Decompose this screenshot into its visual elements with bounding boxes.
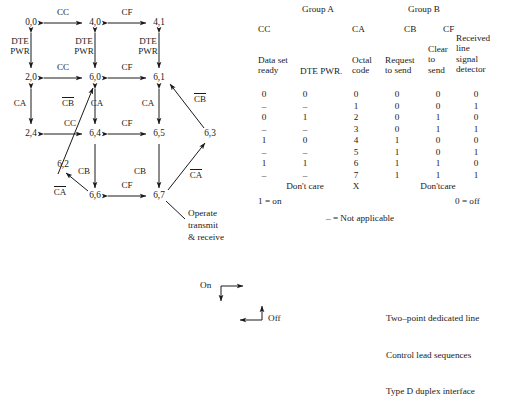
- table-cell: 1: [385, 170, 409, 180]
- table-cell: 0: [252, 89, 276, 99]
- signal-code-CC: CC: [258, 24, 270, 34]
- table-cell: 1: [385, 147, 409, 157]
- h-octal-code: Octalcode: [352, 55, 372, 76]
- table-cell: 1: [426, 158, 450, 168]
- header-line: Data set: [258, 55, 288, 65]
- table-cell: 4: [344, 135, 368, 145]
- table-cell: 0: [426, 89, 450, 99]
- table-group-header: Group B: [408, 4, 440, 14]
- header-line: code: [352, 65, 372, 75]
- table-cell: 1: [426, 170, 450, 180]
- figure-caption: Two–point dedicated line Control lead se…: [386, 288, 479, 400]
- table-cell: –: [293, 101, 317, 111]
- table-cell: 1: [344, 101, 368, 111]
- signal-code-CA: CA: [352, 24, 365, 34]
- caption-line-1: Two–point dedicated line: [386, 312, 479, 324]
- caption-line-3: Type D duplex interface: [386, 385, 479, 397]
- table-cell: 0: [385, 124, 409, 134]
- table-cell: 3: [344, 124, 368, 134]
- table-cell: 0: [464, 89, 488, 99]
- header-line: Received: [456, 33, 490, 43]
- table-cell: –: [293, 170, 317, 180]
- table-cell: 1: [252, 158, 276, 168]
- table-cell: 1: [252, 135, 276, 145]
- dont-care-octal: X: [328, 181, 384, 191]
- header-line: send: [428, 65, 448, 75]
- table-cell: 7: [344, 170, 368, 180]
- table-cell: –: [252, 124, 276, 134]
- table-cell: 1: [385, 135, 409, 145]
- dont-care-b: Don'tcare: [410, 181, 466, 191]
- table-cell: 0: [293, 89, 317, 99]
- header-line: ready: [258, 65, 288, 75]
- table-cell: 1: [464, 101, 488, 111]
- header-line: Octal: [352, 55, 372, 65]
- table-cell: 0: [385, 89, 409, 99]
- table-cell: 0: [464, 112, 488, 122]
- header-line: to: [428, 54, 448, 64]
- table-cell: –: [252, 101, 276, 111]
- table-cell: 1: [426, 124, 450, 134]
- dont-care-a: Don't care: [277, 181, 333, 191]
- table-cell: 1: [464, 170, 488, 180]
- note-on: 1 = on: [258, 196, 282, 206]
- table-cell: 0: [426, 147, 450, 157]
- h-dte-pwr: DTE PWR.: [300, 66, 342, 76]
- header-line: line: [456, 43, 490, 53]
- signal-code-CF: CF: [443, 24, 454, 34]
- table-cell: 1: [293, 112, 317, 122]
- header-line: DTE PWR.: [300, 66, 342, 76]
- table-cell: 1: [426, 112, 450, 122]
- table-cell: 0: [252, 112, 276, 122]
- header-line: Request: [385, 55, 415, 65]
- header-line: to send: [385, 65, 415, 75]
- signal-code-CB: CB: [404, 24, 416, 34]
- h-received-line: Receivedlinesignaldetector: [456, 33, 490, 74]
- header-line: detector: [456, 64, 490, 74]
- table-cell: 0: [426, 101, 450, 111]
- table-cell: –: [293, 147, 317, 157]
- note-off: 0 = off: [455, 196, 480, 206]
- note-na: – = Not applicable: [326, 213, 394, 223]
- table-cell: 5: [344, 147, 368, 157]
- table-cell: 1: [293, 158, 317, 168]
- table-cell: 6: [344, 158, 368, 168]
- table-cell: –: [293, 124, 317, 134]
- h-data-set-ready: Data setready: [258, 55, 288, 76]
- table-group-header: Group A: [302, 4, 334, 14]
- table-cell: 1: [464, 124, 488, 134]
- table-cell: 1: [464, 147, 488, 157]
- h-request-to-send: Requestto send: [385, 55, 415, 76]
- caption-line-2: Control lead sequences: [386, 349, 479, 361]
- table-cell: 0: [464, 135, 488, 145]
- table-cell: 0: [293, 135, 317, 145]
- table-cell: 0: [344, 89, 368, 99]
- table-cell: 0: [385, 112, 409, 122]
- table-cell: 2: [344, 112, 368, 122]
- header-line: signal: [456, 54, 490, 64]
- table-cell: 1: [385, 158, 409, 168]
- table-cell: –: [252, 147, 276, 157]
- table-cell: 0: [426, 135, 450, 145]
- table-cell: 0: [464, 158, 488, 168]
- h-clear-to-send: Cleartosend: [428, 44, 448, 75]
- header-line: Clear: [428, 44, 448, 54]
- table-cell: –: [252, 170, 276, 180]
- table-cell: 0: [385, 101, 409, 111]
